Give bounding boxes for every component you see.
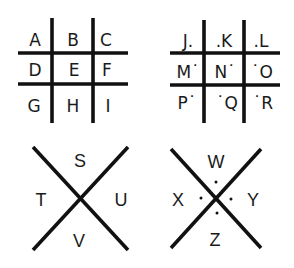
letter-o: ˙O	[251, 62, 273, 82]
letter-q: ˙Q	[216, 93, 238, 113]
letter-f: F	[102, 60, 112, 80]
dotted-grid: J. .K .L M˙ N˙ ˙O P˙ ˙Q ˙R	[170, 20, 280, 123]
letter-z: Z	[210, 230, 221, 250]
letter-h: H	[67, 96, 80, 116]
letter-t: T	[36, 190, 47, 210]
letter-y: Y	[247, 190, 259, 210]
letter-i: I	[105, 96, 110, 116]
letter-b: B	[67, 30, 79, 50]
plain-grid: A B C D E F G H I	[18, 18, 128, 123]
letter-r: ˙R	[253, 93, 274, 113]
dotted-x: W X Y Z	[171, 149, 261, 250]
dot-marker	[200, 197, 203, 200]
pigpen-cipher-diagram: A B C D E F G H I J. .K .L M˙ N˙ ˙O P˙ ˙…	[0, 0, 294, 268]
letter-c: C	[100, 30, 112, 50]
letter-v: V	[73, 231, 85, 251]
dot-marker	[216, 212, 219, 215]
dot-marker	[215, 181, 218, 184]
dot-marker	[230, 198, 233, 201]
letter-p: P˙	[178, 93, 197, 113]
letter-k: .K	[216, 31, 233, 51]
letter-n: N˙	[214, 62, 235, 82]
letter-u: U	[115, 190, 128, 210]
letter-g: G	[27, 96, 40, 116]
plain-x: S T U V	[33, 147, 128, 251]
letter-l: .L	[254, 31, 269, 51]
letter-d: D	[28, 60, 41, 80]
letter-x: X	[172, 190, 184, 210]
letter-j: J.	[182, 31, 193, 51]
letter-s: S	[74, 151, 86, 171]
letter-w: W	[208, 152, 225, 172]
letter-m: M˙	[176, 62, 199, 82]
letter-e: E	[69, 60, 80, 80]
letter-a: A	[29, 30, 41, 50]
